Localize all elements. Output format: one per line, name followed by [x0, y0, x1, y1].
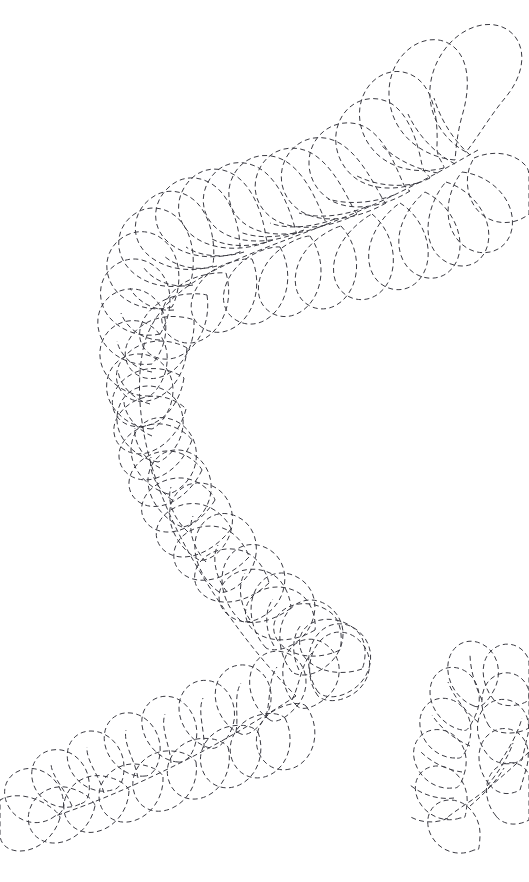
feather-stencil-drawing: [0, 0, 529, 882]
stencil-canvas: [0, 0, 529, 882]
canvas-background: [0, 0, 529, 882]
